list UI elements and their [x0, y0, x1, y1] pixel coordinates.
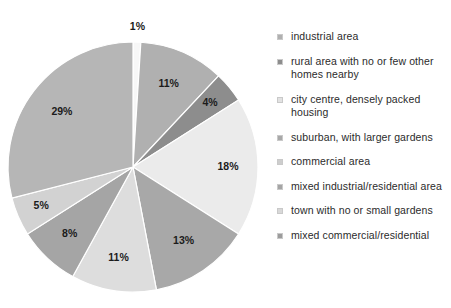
legend-item[interactable]: mixed commercial/residential	[277, 229, 451, 243]
legend-swatch-icon	[277, 34, 283, 40]
legend-item[interactable]: industrial area	[277, 30, 451, 44]
pie-slice-label: 18%	[217, 160, 239, 172]
legend-swatch-icon	[277, 59, 283, 65]
legend-swatch-icon	[277, 159, 283, 165]
pie-chart-area: 1%11%4%18%13%11%8%5%29%	[0, 0, 272, 308]
legend-item[interactable]: mixed industrial/residential area	[277, 180, 451, 194]
pie-slice-label: 4%	[203, 96, 219, 108]
chart-legend: industrial arearural area with no or few…	[277, 30, 451, 308]
pie-slice-label: 11%	[108, 251, 129, 263]
legend-item-label: town with no or small gardens	[291, 204, 433, 218]
pie-chart-page: 1%11%4%18%13%11%8%5%29% industrial arear…	[0, 0, 451, 308]
legend-item-label: suburban, with larger gardens	[291, 131, 433, 145]
legend-item-label: rural area with no or few other homes ne…	[291, 55, 451, 82]
legend-item[interactable]: commercial area	[277, 155, 451, 169]
legend-swatch-icon	[277, 184, 283, 190]
pie-slice-label: 13%	[173, 234, 195, 246]
pie-slice-label: 8%	[62, 227, 78, 239]
legend-item[interactable]: suburban, with larger gardens	[277, 131, 451, 145]
legend-item-label: industrial area	[291, 30, 358, 44]
legend-item[interactable]: rural area with no or few other homes ne…	[277, 55, 451, 82]
legend-item[interactable]: town with no or small gardens	[277, 204, 451, 218]
legend-swatch-icon	[277, 97, 283, 103]
legend-item[interactable]: city centre, densely packed housing	[277, 93, 451, 120]
pie-chart-svg: 1%11%4%18%13%11%8%5%29%	[0, 0, 272, 308]
pie-slice-label: 5%	[34, 199, 50, 211]
legend-item-label: mixed industrial/residential area	[291, 180, 442, 194]
pie-slice-label: 29%	[51, 105, 73, 117]
legend-item-label: city centre, densely packed housing	[291, 93, 451, 120]
legend-swatch-icon	[277, 233, 283, 239]
legend-swatch-icon	[277, 135, 283, 141]
pie-slice-label: 11%	[158, 77, 179, 89]
pie-slice-label: 1%	[130, 20, 146, 32]
legend-swatch-icon	[277, 208, 283, 214]
legend-item-label: mixed commercial/residential	[291, 229, 429, 243]
legend-item-label: commercial area	[291, 155, 370, 169]
